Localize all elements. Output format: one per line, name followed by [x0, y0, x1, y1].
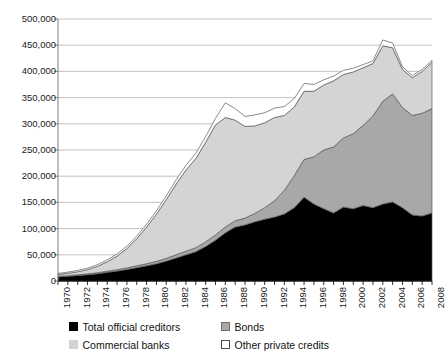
- y-axis-tick-label: 300,000: [4, 119, 56, 129]
- x-axis-tick-label: 2000: [357, 287, 367, 308]
- y-axis-tick-label: 150,000: [4, 197, 56, 207]
- y-axis-tick-label: 50,000: [4, 250, 56, 260]
- legend-label: Commercial banks: [83, 339, 170, 351]
- legend-swatch-icon: [69, 340, 78, 349]
- y-axis-tick-label: 350,000: [4, 93, 56, 103]
- legend-swatch-icon: [221, 322, 230, 331]
- x-axis-tick-label: 1988: [239, 287, 249, 308]
- legend-item-total-official-creditors[interactable]: Total official creditors: [69, 318, 221, 335]
- legend-item-bonds[interactable]: Bonds: [221, 318, 373, 335]
- plot-area: [0, 0, 441, 300]
- x-axis-tick-label: 2006: [416, 287, 426, 308]
- x-axis-tick-label: 1998: [338, 287, 348, 308]
- legend-swatch-icon: [221, 340, 230, 349]
- legend-item-other-private-credits[interactable]: Other private credits: [221, 336, 373, 353]
- legend-swatch-icon: [69, 322, 78, 331]
- y-axis-tick-label: 500,000: [4, 14, 56, 24]
- y-axis-tick-label: 400,000: [4, 66, 56, 76]
- legend-label: Total official creditors: [83, 321, 181, 333]
- x-axis-tick-label: 1982: [180, 287, 190, 308]
- legend-label: Other private credits: [235, 339, 330, 351]
- y-axis-tick-label: 450,000: [4, 40, 56, 50]
- x-axis-tick-label: 1974: [101, 287, 111, 308]
- x-axis-tick-label: 2004: [397, 287, 407, 308]
- x-axis-tick-label: 1980: [160, 287, 170, 308]
- x-axis-tick-label: 1992: [279, 287, 289, 308]
- y-axis-tick-label: 200,000: [4, 171, 56, 181]
- y-axis-tick-label: 100,000: [4, 224, 56, 234]
- y-axis-tick-labels: 050,000100,000150,000200,000250,000300,0…: [0, 0, 56, 300]
- x-axis-tick-label: 1972: [82, 287, 92, 308]
- legend-label: Bonds: [235, 321, 265, 333]
- x-axis-tick-label: 1986: [219, 287, 229, 308]
- x-axis-tick-label: 1994: [298, 287, 308, 308]
- y-axis-tick-label: 250,000: [4, 145, 56, 155]
- chart-legend: Total official creditors Bonds Commercia…: [0, 318, 441, 358]
- x-axis-tick-label: 1970: [62, 287, 72, 308]
- legend-item-commercial-banks[interactable]: Commercial banks: [69, 336, 221, 353]
- x-axis-tick-label: 2008: [436, 287, 446, 308]
- chart-canvas: [0, 0, 441, 300]
- legend-row: Commercial banks Other private credits: [0, 336, 441, 353]
- x-axis-tick-label: 1990: [259, 287, 269, 308]
- x-axis-tick-label: 1976: [121, 287, 131, 308]
- x-axis-tick-label: 1984: [200, 287, 210, 308]
- legend-row: Total official creditors Bonds: [0, 318, 441, 335]
- x-axis-tick-label: 1996: [318, 287, 328, 308]
- x-axis-tick-label: 2002: [377, 287, 387, 308]
- x-axis-tick-label: 1978: [141, 287, 151, 308]
